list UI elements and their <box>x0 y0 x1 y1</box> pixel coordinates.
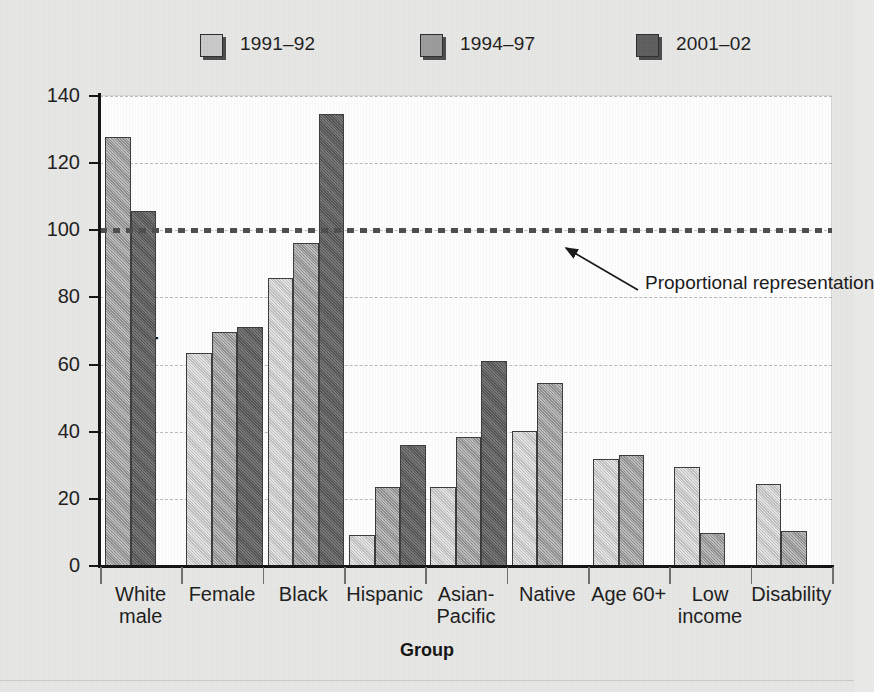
bar-female-200102[interactable] <box>237 327 263 566</box>
y-axis-line <box>98 93 101 567</box>
y-tick-label: 140 <box>20 85 80 105</box>
bar-black-199192[interactable] <box>268 278 294 566</box>
gridline <box>100 297 832 298</box>
x-axis-group-separator <box>507 567 509 584</box>
bar-hispanic-200102[interactable] <box>400 445 426 566</box>
x-axis-group-separator <box>344 567 346 584</box>
x-axis-group-separator <box>263 567 265 584</box>
bar-white-male-199497[interactable] <box>105 137 131 566</box>
legend-label-2001-02: 2001–02 <box>676 33 751 55</box>
legend-label-1994-97: 1994–97 <box>460 33 535 55</box>
gridline <box>100 96 832 97</box>
bar-black-200102[interactable] <box>319 114 345 566</box>
x-axis-label-white-male: White male <box>100 583 181 627</box>
x-axis-group-separator <box>100 567 102 584</box>
bar-asian-pacific-199192[interactable] <box>430 487 456 566</box>
gridline <box>100 163 832 164</box>
bar-asian-pacific-200102[interactable] <box>481 361 507 566</box>
x-axis-label-low-income: Low income <box>669 583 750 627</box>
bar-native-199497[interactable] <box>537 383 563 566</box>
bar-disability-199192[interactable] <box>756 484 782 566</box>
x-axis-label-female: Female <box>181 583 262 605</box>
x-axis-label-age-60: Age 60+ <box>588 583 669 605</box>
proportional-representation-line <box>100 228 832 233</box>
x-axis-label-black: Black <box>263 583 344 605</box>
x-axis-label-disability: Disability <box>751 583 832 605</box>
y-tick-label: 120 <box>20 152 80 172</box>
plot-area: 020406080100120140 Percent representatio… <box>100 95 832 565</box>
x-axis-label-hispanic: Hispanic <box>344 583 425 605</box>
bar-disability-199497[interactable] <box>781 531 807 566</box>
y-tick-label: 20 <box>20 488 80 508</box>
annotation-proportional-representation: Proportional representation <box>645 272 874 294</box>
x-axis-line <box>98 565 834 568</box>
bar-white-male-200102[interactable] <box>131 211 157 566</box>
x-axis-group-separator <box>832 567 834 584</box>
x-axis-group-separator <box>181 567 183 584</box>
bar-asian-pacific-199497[interactable] <box>456 437 482 566</box>
x-axis-group-separator <box>669 567 671 584</box>
x-axis-label-asian-pacific: Asian- Pacific <box>425 583 506 627</box>
y-tick-label: 80 <box>20 286 80 306</box>
bar-hispanic-199192[interactable] <box>349 535 375 566</box>
bar-hispanic-199497[interactable] <box>375 487 401 566</box>
legend-swatch-medium-icon <box>420 34 443 57</box>
chart-legend: 1991–92 1994–97 2001–02 <box>0 28 854 68</box>
page-bottom-divider <box>0 680 854 681</box>
bar-native-199192[interactable] <box>512 431 538 566</box>
y-tick-label: 0 <box>20 555 80 575</box>
bar-female-199497[interactable] <box>212 332 238 566</box>
x-axis-title: Group <box>0 640 854 661</box>
x-axis-group-separator <box>425 567 427 584</box>
y-tick-label: 40 <box>20 421 80 441</box>
y-tick-label: 60 <box>20 354 80 374</box>
legend-swatch-light-icon <box>200 34 223 57</box>
legend-label-1991-92: 1991–92 <box>240 33 315 55</box>
bar-black-199497[interactable] <box>293 243 319 566</box>
x-axis-label-native: Native <box>507 583 588 605</box>
legend-swatch-dark-icon <box>636 34 659 57</box>
bar-female-199192[interactable] <box>186 353 212 566</box>
annotation-arrow-icon <box>560 240 650 300</box>
bar-age-60-199192[interactable] <box>593 459 619 566</box>
x-axis-group-separator <box>588 567 590 584</box>
bar-low-income-199192[interactable] <box>674 467 700 566</box>
bar-low-income-199497[interactable] <box>700 533 726 566</box>
x-axis-group-separator <box>751 567 753 584</box>
bar-age-60-199497[interactable] <box>619 455 645 566</box>
y-tick-label: 100 <box>20 219 80 239</box>
